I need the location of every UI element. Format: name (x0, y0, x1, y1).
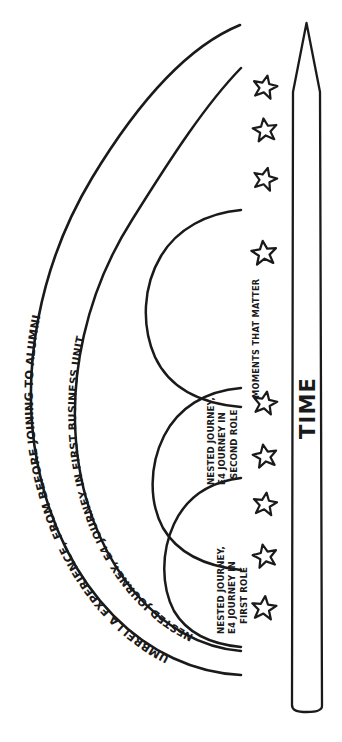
moments-that-matter-label: MOMENTS THAT MATTER (251, 278, 261, 398)
nested-arc-upper-lobe (146, 210, 241, 407)
time-axis-label: TIME (296, 377, 320, 439)
journey-diagram-svg: UMBRELLA EXPERIENCE, FROM BEFORE JOINING… (0, 0, 342, 742)
moment-star (251, 442, 278, 468)
moment-star (250, 240, 277, 265)
moment-star (251, 595, 277, 620)
umbrella-arc-outer (31, 25, 241, 675)
diagram-canvas: UMBRELLA EXPERIENCE, FROM BEFORE JOINING… (0, 0, 342, 742)
time-axis-arrow (292, 23, 322, 712)
moment-star (251, 542, 279, 569)
moment-star (251, 165, 279, 192)
nested-business-unit-label: NESTED JOURNEY, E4 JOURNEY IN FIRST BUSI… (66, 334, 195, 644)
nested-journey-first-role-label: NESTED JOURNEY, E4 JOURNEY IN FIRST ROLE (216, 543, 249, 634)
nested-arc-second-role (153, 388, 241, 570)
moment-star (252, 491, 278, 516)
nested-journey-second-role-label: NESTED JOURNEY, E4 JOURNEY IN SECOND ROL… (206, 394, 239, 485)
moment-star (252, 117, 279, 142)
moment-star (251, 73, 279, 100)
